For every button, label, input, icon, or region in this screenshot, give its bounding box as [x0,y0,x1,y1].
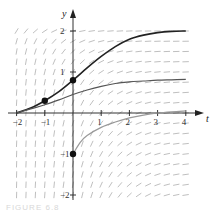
slope-field-chart: t y −2−1123421−1−2 [0,0,216,215]
x-axis [8,110,204,116]
y-tick-label: −2 [60,190,70,200]
x-tick-label: 3 [154,117,159,127]
x-tick-label: 2 [125,117,129,127]
y-tick-label: 2 [60,26,65,36]
x-axis-arrow-icon [195,110,204,116]
y-axis-arrow-icon [70,9,76,18]
y-axis-label: y [61,8,67,19]
initial-point [70,77,76,83]
figure-caption: FIGURE 6.8 [6,203,60,212]
x-tick-label: 1 [97,117,102,127]
solution-middle-curve [17,79,186,113]
y-axis [70,9,76,200]
x-tick-label: 4 [182,117,187,127]
x-tick-label: −2 [13,117,23,127]
initial-point [70,151,76,157]
x-axis-label: t [206,113,209,124]
initial-point [42,98,48,104]
x-tick-label: −1 [41,117,51,127]
y-tick-label: −1 [60,149,70,159]
y-tick-label: 1 [60,67,65,77]
